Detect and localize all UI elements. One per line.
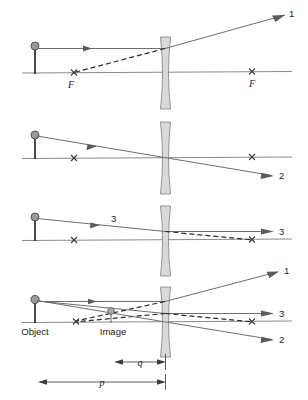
ray-1-label: 1 <box>284 265 289 276</box>
dimension-p: p <box>38 374 166 390</box>
focal-label-right: F <box>248 78 256 89</box>
object-ball-icon <box>31 131 39 139</box>
panel-1: 1 F F <box>22 8 294 109</box>
ray-3-label: 3 <box>279 226 284 237</box>
refracted-ray-2-arrowhead <box>261 173 275 179</box>
panel-3: 3 3 <box>22 206 292 276</box>
incident-ray-2 <box>37 136 166 158</box>
dimension-q-label: q <box>138 357 143 368</box>
refracted-ray-2-arrowhead <box>261 337 275 343</box>
image-ball-icon <box>108 308 115 315</box>
ray-diagram-figure: 1 F F 2 <box>0 0 308 400</box>
refracted-ray-2 <box>166 322 273 340</box>
virtual-ray-3-dashed <box>166 232 254 241</box>
ray-3-label: 3 <box>279 308 284 319</box>
panel-4: Object 1 3 2 Image <box>21 265 292 357</box>
incident-ray-3-arrowhead <box>90 223 100 229</box>
incident-ray-1-arrowhead <box>83 46 92 52</box>
ray-2-label: 2 <box>279 170 284 181</box>
dimension-p-right-arrowhead <box>157 379 166 384</box>
refracted-ray-2 <box>166 158 273 176</box>
refracted-ray-1-arrowhead <box>272 15 285 22</box>
object-ball-icon <box>31 213 39 221</box>
refracted-ray-1 <box>165 15 285 49</box>
incident-ray-1-arrowhead <box>88 299 97 305</box>
dimension-q-right-arrowhead <box>157 359 166 364</box>
object-label: Object <box>21 326 49 337</box>
ray-1-label: 1 <box>289 8 294 19</box>
panel-2: 2 <box>22 122 292 194</box>
refracted-ray-1 <box>165 272 277 302</box>
dimension-p-label: p <box>99 377 105 388</box>
virtual-ray-3-dashed <box>166 314 254 323</box>
refracted-ray-3-arrowhead <box>261 228 274 234</box>
incident-ray-2-arrowhead <box>87 144 98 150</box>
ray-diagram-canvas: 1 F F 2 <box>0 0 308 400</box>
concave-lens-icon <box>161 206 171 276</box>
virtual-ray-1-dashed <box>74 49 165 73</box>
incident-ray-3-label: 3 <box>111 213 116 224</box>
ray-2-label: 2 <box>279 334 284 345</box>
focal-point-left <box>73 319 79 325</box>
dimension-p-left-arrowhead <box>38 379 47 384</box>
virtual-ray-1-dashed <box>76 302 165 322</box>
object-ball-icon <box>31 295 39 303</box>
incident-ray-3 <box>37 219 166 232</box>
focal-label-left: F <box>67 79 75 90</box>
image-label: Image <box>100 326 126 337</box>
dimension-q-left-arrowhead <box>114 359 123 364</box>
refracted-ray-3-arrowhead <box>261 310 274 316</box>
dimension-q: q <box>114 354 166 370</box>
refracted-ray-1-arrowhead <box>267 272 280 279</box>
